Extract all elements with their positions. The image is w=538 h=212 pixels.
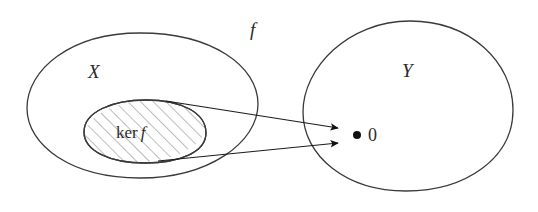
- diagram-canvas: [0, 0, 538, 212]
- kernel-label: kerf: [116, 124, 145, 141]
- codomain-set-label: Y: [402, 61, 413, 80]
- domain-set-label: X: [88, 62, 100, 81]
- kernel-label-prefix: ker: [116, 123, 138, 142]
- zero-element-label: 0: [368, 126, 377, 144]
- kernel-diagram: X f kerf Y 0: [0, 0, 538, 212]
- codomain-set-outline: [303, 21, 513, 191]
- kernel-label-map: f: [138, 123, 146, 142]
- zero-point-marker: [353, 131, 361, 139]
- map-label: f: [250, 20, 255, 39]
